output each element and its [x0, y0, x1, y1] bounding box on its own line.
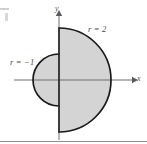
curve-label-r-equals-negative-1: r = −1 [10, 58, 34, 67]
figure-canvas [0, 0, 147, 144]
polar-region-figure: r = 2 r = −1 x y [0, 0, 147, 144]
figure-bottom-rule [0, 141, 147, 142]
x-axis-label: x [137, 75, 141, 83]
y-axis-label: y [55, 5, 59, 13]
curve-label-r-equals-2: r = 2 [88, 25, 107, 34]
